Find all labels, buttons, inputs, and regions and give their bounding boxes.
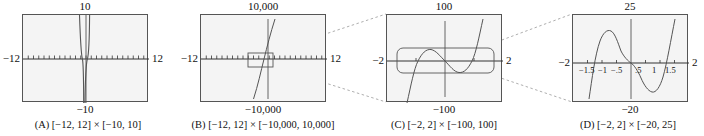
panel-a-plot-frame	[22, 14, 148, 102]
panel-a-bottom-label: −10	[76, 104, 93, 115]
panel-c-bottom-label: −100	[433, 104, 456, 115]
panel-d-bottom-label: −20	[621, 104, 638, 115]
panel-b-bottom-label: −10,000	[245, 104, 281, 115]
figure-zoom-sequence: 10 −10 −12 12 (A) [−12, 12] × [−10, 10]	[0, 0, 704, 136]
panel-d-top-label: 25	[625, 1, 636, 12]
panel-c-caption: (C) [−2, 2] × [−100, 100]	[391, 119, 497, 131]
panel-d-tick-label-1: −1.5	[579, 65, 594, 76]
panel-c-plot	[387, 15, 503, 103]
panel-d-tick-label-3: −.5	[611, 65, 622, 76]
panel-b-plot	[201, 15, 327, 103]
panel-b-left-label: −12	[174, 53, 198, 64]
panel-d-caption: (D) [−2, 2] × [−20, 25]	[580, 119, 676, 131]
panel-a-right-label: 12	[152, 53, 163, 64]
panel-d-left-label: −2	[548, 57, 570, 68]
panel-a-left-label: −12	[0, 53, 20, 64]
panel-b-plot-frame	[200, 14, 326, 102]
panel-d-tick-label-2: −1	[598, 65, 607, 76]
panel-b-caption: (B) [−12, 12] × [−10,000, 10,000]	[192, 119, 335, 131]
panel-a-plot	[23, 15, 149, 103]
panel-d-plot	[573, 15, 689, 103]
panel-c-top-label: 100	[436, 1, 453, 12]
panel-d-tick-label-4: .5	[635, 65, 641, 76]
panel-d-right-label: 2	[692, 57, 698, 68]
panel-a-top-label: 10	[80, 1, 91, 12]
panel-d-tick-label-6: 1.5	[665, 65, 676, 76]
panel-c-left-label: −2	[362, 55, 384, 66]
panel-c-plot-frame	[386, 14, 502, 102]
panel-c-right-label: 2	[506, 55, 512, 66]
panel-d-plot-frame: −1.5 −1 −.5 .5 1 1.5	[572, 14, 688, 102]
panel-d-tick-label-5: 1	[652, 65, 656, 76]
panel-a-caption: (A) [−12, 12] × [−10, 10]	[35, 119, 142, 131]
panel-b-top-label: 10,000	[248, 1, 278, 12]
panel-b-right-label: 12	[330, 53, 341, 64]
